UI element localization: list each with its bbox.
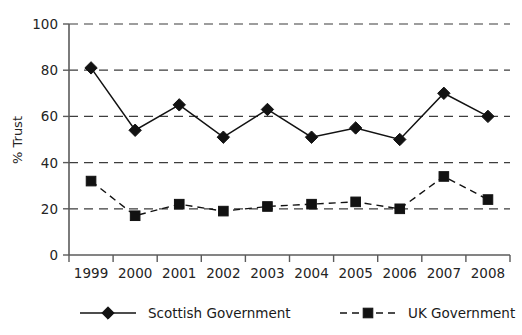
diamond-marker-icon xyxy=(482,110,494,122)
x-tick-label-2008: 2008 xyxy=(471,265,505,281)
series-line xyxy=(91,176,488,215)
legend-item-1: Scottish Government xyxy=(80,305,291,321)
square-marker-icon xyxy=(307,199,317,209)
x-axis-tick-labels: 1999200020012002200320042005200620072008 xyxy=(74,265,505,281)
square-marker-icon xyxy=(86,176,96,186)
x-tick-label-2006: 2006 xyxy=(383,265,417,281)
x-tick-label-2001: 2001 xyxy=(162,265,196,281)
x-tick-label-2002: 2002 xyxy=(206,265,240,281)
legend-label: Scottish Government xyxy=(148,305,291,321)
y-axis-tick-labels: 020406080100 xyxy=(32,16,58,263)
y-axis-ticks xyxy=(63,24,69,255)
square-marker-icon xyxy=(395,204,405,214)
line-chart: 020406080100 199920002001200220032004200… xyxy=(0,0,522,335)
y-tick-label: 0 xyxy=(49,247,58,263)
diamond-marker-icon xyxy=(349,122,361,134)
square-marker-icon xyxy=(363,308,373,318)
series-line xyxy=(91,68,488,140)
x-tick-label-2004: 2004 xyxy=(294,265,328,281)
square-marker-icon xyxy=(130,211,140,221)
chart-legend: Scottish GovernmentUK Government xyxy=(80,305,515,321)
diamond-marker-icon xyxy=(217,131,229,143)
square-marker-icon xyxy=(263,202,273,212)
square-marker-icon xyxy=(483,195,493,205)
diamond-marker-icon xyxy=(261,103,273,115)
square-marker-icon xyxy=(351,197,361,207)
y-axis-title: % Trust xyxy=(10,116,25,164)
y-tick-label: 80 xyxy=(41,62,58,78)
y-tick-label: 20 xyxy=(41,201,58,217)
legend-item-2: UK Government xyxy=(340,305,515,321)
x-tick-label-2003: 2003 xyxy=(250,265,284,281)
square-marker-icon xyxy=(174,199,184,209)
series-1 xyxy=(85,62,494,146)
x-tick-label-2007: 2007 xyxy=(427,265,461,281)
diamond-marker-icon xyxy=(173,99,185,111)
x-tick-label-2005: 2005 xyxy=(338,265,372,281)
y-tick-label: 60 xyxy=(41,108,58,124)
x-axis-ticks xyxy=(69,255,510,262)
x-tick-label-1999: 1999 xyxy=(74,265,108,281)
y-tick-label: 100 xyxy=(32,16,58,32)
diamond-marker-icon xyxy=(305,131,317,143)
diamond-marker-icon xyxy=(129,124,141,136)
data-series xyxy=(85,62,494,221)
series-2 xyxy=(86,172,493,221)
x-tick-label-2000: 2000 xyxy=(118,265,152,281)
chart-canvas: 020406080100 199920002001200220032004200… xyxy=(0,0,522,335)
diamond-marker-icon xyxy=(85,62,97,74)
square-marker-icon xyxy=(439,172,449,182)
legend-label: UK Government xyxy=(408,305,515,321)
y-tick-label: 40 xyxy=(41,155,58,171)
square-marker-icon xyxy=(219,206,229,216)
diamond-marker-icon xyxy=(102,307,114,319)
